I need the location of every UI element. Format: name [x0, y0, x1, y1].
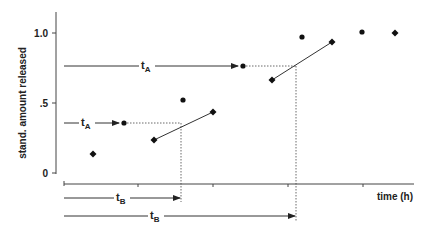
tB-long-label: tB: [150, 209, 160, 224]
marker-circle: [240, 63, 245, 68]
marker-circle: [180, 97, 185, 102]
tB-short-label: tB: [116, 191, 126, 206]
fit-line-2: [272, 42, 332, 80]
marker-diamond: [269, 77, 276, 84]
y-tick-label-0: 0: [42, 168, 48, 179]
marker-circle: [121, 120, 126, 125]
marker-diamond: [329, 39, 336, 46]
marker-circle: [299, 34, 304, 39]
marker-diamond: [151, 137, 158, 144]
tB-arrows: [64, 198, 295, 216]
marker-circle: [359, 29, 364, 34]
marker-diamond: [392, 30, 399, 37]
series-a-markers: [121, 29, 364, 125]
tA-low-label: tA: [81, 116, 91, 131]
release-chart: 1.0 .5 0 stand. amount released time (h)…: [0, 0, 433, 228]
x-axis-title: time (h): [377, 191, 413, 202]
y-axis: 1.0 .5 0 stand. amount released: [17, 12, 56, 179]
y-tick-label-1: 1.0: [34, 28, 48, 39]
fit-line-1: [154, 112, 213, 140]
marker-diamond: [90, 151, 97, 158]
tA-arrows: [64, 66, 238, 123]
fit-segments: [154, 42, 332, 140]
marker-diamond: [210, 109, 217, 116]
y-tick-label-05: .5: [40, 98, 49, 109]
tA-high-label: tA: [141, 59, 151, 74]
y-axis-title: stand. amount released: [17, 47, 28, 159]
series-b-markers: [90, 30, 399, 158]
